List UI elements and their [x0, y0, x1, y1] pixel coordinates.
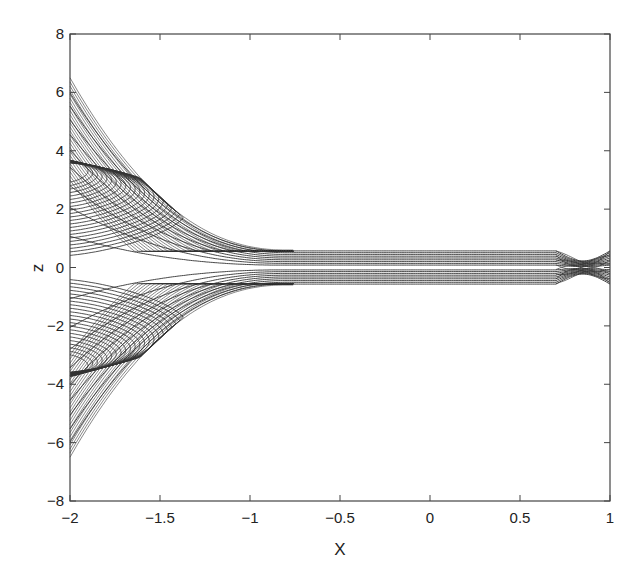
y-tick-label: −2	[47, 317, 64, 334]
contour-lines	[70, 78, 610, 457]
contour-plot: −2−1.5−1−0.500.51 −8−6−4−202468 X z	[0, 0, 640, 583]
contour-line	[70, 273, 610, 415]
contour-line	[70, 284, 293, 376]
contour-line	[70, 273, 610, 429]
plot-frame	[70, 34, 610, 501]
x-tick-label: −1	[241, 509, 258, 526]
contour-line	[70, 284, 293, 429]
contour-line	[70, 106, 610, 262]
x-tick-label: 0	[426, 509, 434, 526]
contour-line	[70, 106, 293, 251]
y-tick-label: 4	[56, 142, 64, 159]
y-axis-ticks: −8−6−4−202468	[47, 25, 610, 509]
x-tick-label: 1	[606, 509, 614, 526]
y-tick-label: −8	[47, 492, 64, 509]
y-tick-label: 8	[56, 25, 64, 42]
y-axis-label: z	[28, 264, 47, 273]
y-tick-label: 6	[56, 83, 64, 100]
contour-line	[70, 102, 293, 251]
contour-line	[70, 120, 610, 262]
contour-line	[70, 143, 293, 251]
x-tick-label: 0.5	[510, 509, 531, 526]
x-tick-label: −2	[61, 509, 78, 526]
x-axis-label: X	[334, 540, 345, 559]
contour-line	[70, 274, 610, 442]
y-tick-label: 0	[56, 259, 64, 276]
y-tick-label: −4	[47, 375, 64, 392]
x-tick-label: −1.5	[145, 509, 175, 526]
contour-line	[70, 284, 293, 433]
contour-line	[70, 284, 293, 360]
x-tick-label: −0.5	[325, 509, 355, 526]
contour-line	[70, 93, 610, 261]
y-tick-label: −6	[47, 434, 64, 451]
y-tick-label: 2	[56, 200, 64, 217]
x-axis-ticks: −2−1.5−1−0.500.51	[61, 34, 614, 526]
